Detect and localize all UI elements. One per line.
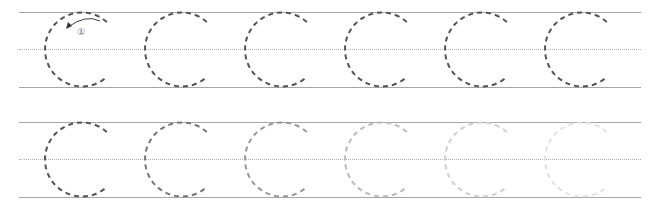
tracing-letter-c (345, 13, 407, 87)
tracing-letter-c (545, 13, 607, 87)
tracing-letter-c (545, 123, 607, 197)
tracing-letter-c (445, 13, 507, 87)
tracing-letter-c (445, 123, 507, 197)
tracing-letter-c (245, 123, 307, 197)
tracing-letter-c (145, 123, 207, 197)
tracing-letter-c (345, 123, 407, 197)
stroke-order-number: ① (77, 27, 85, 37)
tracing-letter-c (145, 12, 207, 86)
tracing-letter-c (245, 12, 307, 86)
letters-canvas: ① (0, 0, 662, 215)
tracing-letter-c (45, 12, 107, 86)
tracing-letter-c (45, 123, 107, 197)
